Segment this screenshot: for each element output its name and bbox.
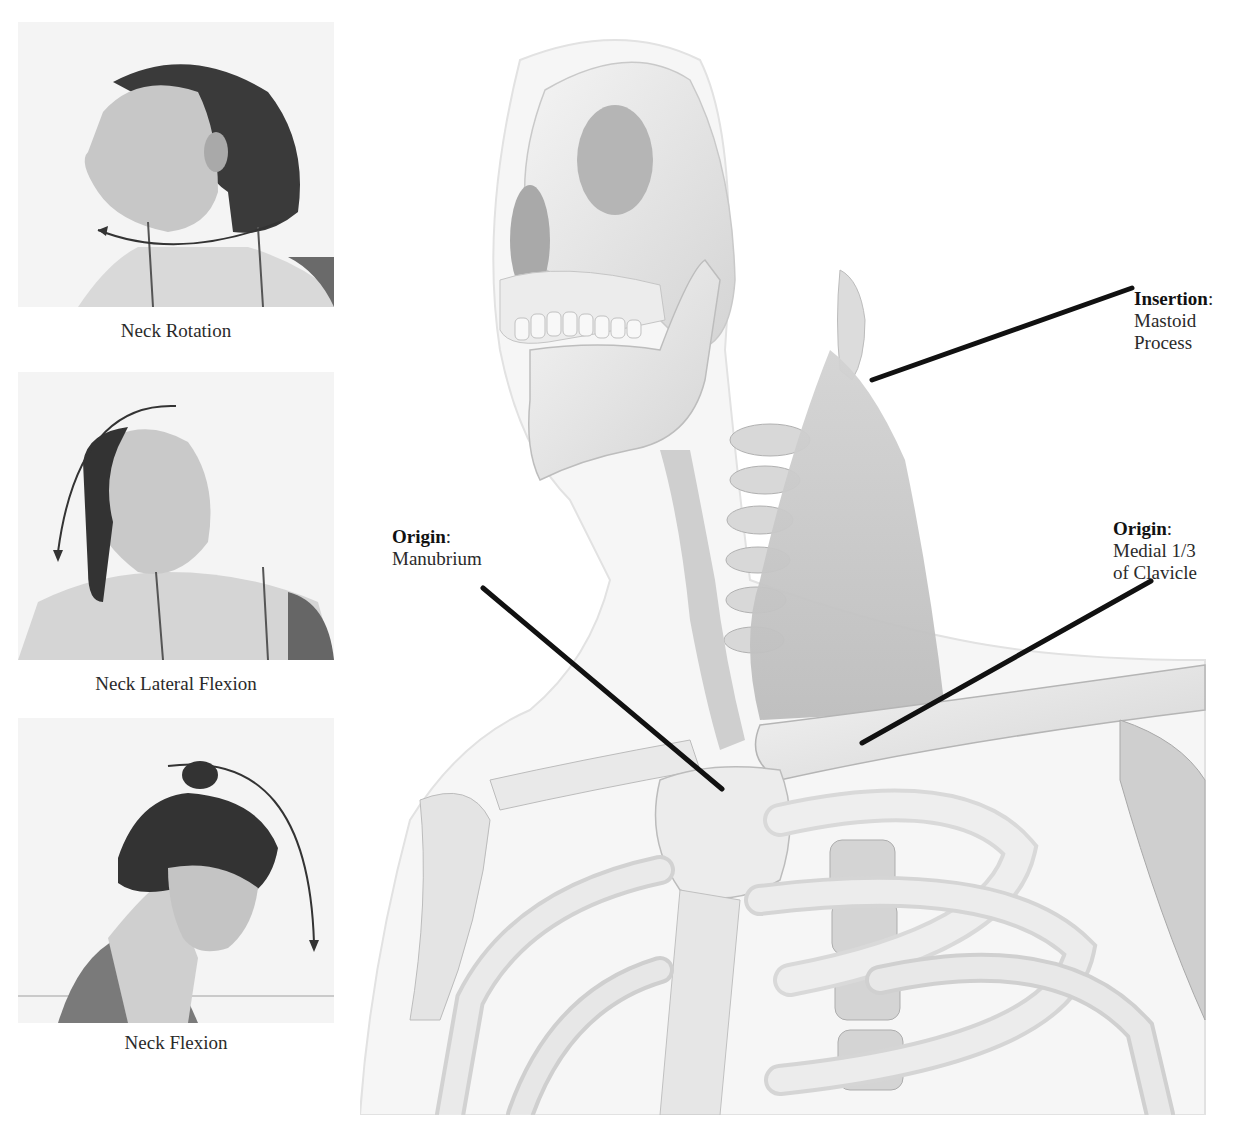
neck-flexion-photo — [18, 718, 334, 1023]
neck-rotation-photo — [18, 22, 334, 307]
label-origin-manubrium-line1: Manubrium — [392, 548, 482, 569]
label-insertion-line1: Mastoid — [1134, 310, 1196, 331]
sternocleidomastoid-muscle — [750, 350, 945, 720]
photo-neck-rotation — [18, 22, 334, 307]
label-origin-manubrium: Origin: Manubrium — [392, 526, 482, 570]
sternocleidomastoid-illustration — [360, 20, 1235, 1115]
label-origin-clavicle-line2: of Clavicle — [1113, 562, 1197, 583]
photo-neck-lateral-flexion — [18, 372, 334, 660]
label-insertion-line2: Process — [1134, 332, 1192, 353]
caption-neck-flexion: Neck Flexion — [0, 1032, 352, 1054]
photo-neck-flexion — [18, 718, 334, 1023]
label-origin-manubrium-title: Origin — [392, 526, 446, 547]
skeleton-head-neck-thorax — [360, 20, 1235, 1115]
caption-neck-lateral-flexion: Neck Lateral Flexion — [0, 673, 352, 695]
label-insertion: Insertion: Mastoid Process — [1134, 288, 1213, 354]
caption-neck-rotation: Neck Rotation — [0, 320, 352, 342]
label-origin-clavicle: Origin: Medial 1/3 of Clavicle — [1113, 518, 1197, 584]
leader-line-insertion — [872, 288, 1132, 380]
neck-lateral-flexion-photo — [18, 372, 334, 660]
label-origin-clavicle-title: Origin — [1113, 518, 1167, 539]
label-insertion-title: Insertion — [1134, 288, 1208, 309]
orbit-right — [577, 105, 653, 215]
label-origin-clavicle-line1: Medial 1/3 — [1113, 540, 1196, 561]
